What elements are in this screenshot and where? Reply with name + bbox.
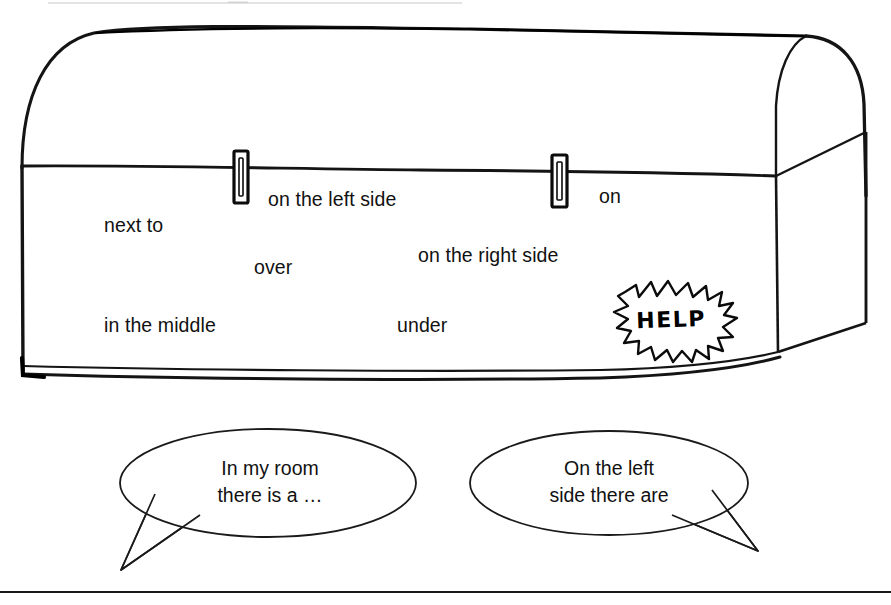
chest-bottom-rim-lower xyxy=(23,357,780,379)
help-badge-label: HELP xyxy=(622,305,721,333)
worksheet-page: next to on the left side on on the right… xyxy=(0,0,891,605)
chest-lid-outline xyxy=(22,27,806,169)
preposition-label-next-to: next to xyxy=(104,216,163,236)
chest-bottom-left-corner xyxy=(22,358,44,377)
preposition-label-under: under xyxy=(397,316,447,336)
speech-bubble-right-line-2: side there are xyxy=(505,482,713,509)
speech-bubble-left-line-2: there is a … xyxy=(166,482,374,509)
preposition-label-over: over xyxy=(254,258,292,278)
preposition-label-in-the-middle: in the middle xyxy=(104,316,216,336)
chest-lid-right-dome xyxy=(806,36,866,196)
chest-lid-right-inner xyxy=(776,36,806,176)
chest-clasp-left xyxy=(234,151,248,203)
chest-lid-divider xyxy=(22,166,776,176)
chest-bottom-rim-upper xyxy=(23,352,778,371)
chest-illustration xyxy=(0,0,891,605)
preposition-label-on: on xyxy=(599,187,621,207)
chest-clasp-right xyxy=(552,155,567,207)
speech-bubble-left-text: In my room there is a … xyxy=(166,455,374,509)
speech-bubble-right-text: On the left side there are xyxy=(505,455,713,509)
chest-body-right-front-edge xyxy=(776,176,778,352)
speech-bubble-left-line-1: In my room xyxy=(166,455,374,482)
chest-body-right-bottom xyxy=(778,323,866,352)
chest-right-seam xyxy=(776,132,866,176)
chest-left-edge xyxy=(22,166,23,370)
preposition-label-on-the-left-side: on the left side xyxy=(268,190,396,210)
speech-bubble-right-line-1: On the left xyxy=(505,455,713,482)
chest-lid-top-ridge xyxy=(96,28,804,36)
preposition-label-on-the-right-side: on the right side xyxy=(418,246,558,266)
